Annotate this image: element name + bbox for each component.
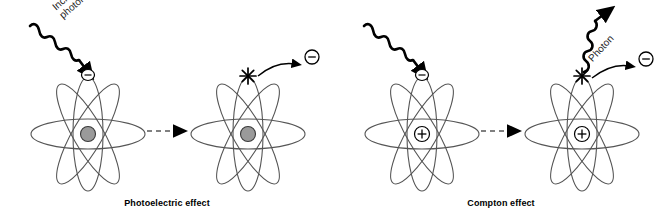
nucleus xyxy=(81,127,96,142)
atom-after-photoelectric xyxy=(191,50,319,191)
atom-before-photoelectric xyxy=(31,70,145,192)
atom-after-compton xyxy=(525,12,653,191)
ejected-electron-path xyxy=(258,63,296,76)
panel-compton-effect: Hard photon Compton effect xyxy=(334,0,668,218)
free-electron xyxy=(305,50,319,64)
compton-drawing xyxy=(334,0,668,218)
nucleus xyxy=(575,127,590,142)
caption-photoelectric-effect: Photoelectric effect xyxy=(0,198,334,209)
bound-electron xyxy=(416,70,429,81)
hard-photon-wave xyxy=(364,24,422,72)
bound-electron xyxy=(82,70,95,81)
nucleus xyxy=(415,127,430,142)
starburst-icon xyxy=(240,68,256,84)
free-electron xyxy=(639,52,653,66)
atom-before-compton xyxy=(365,70,479,192)
caption-compton-effect: Compton effect xyxy=(334,198,668,209)
photon-interaction-figure: Incident photon Photoelectric effect xyxy=(0,0,668,218)
photoelectric-drawing xyxy=(0,0,334,218)
panel-photoelectric-effect: Incident photon Photoelectric effect xyxy=(0,0,334,218)
ejected-electron-path xyxy=(592,65,630,78)
nucleus xyxy=(241,127,256,142)
incident-photon-wave xyxy=(30,24,88,72)
